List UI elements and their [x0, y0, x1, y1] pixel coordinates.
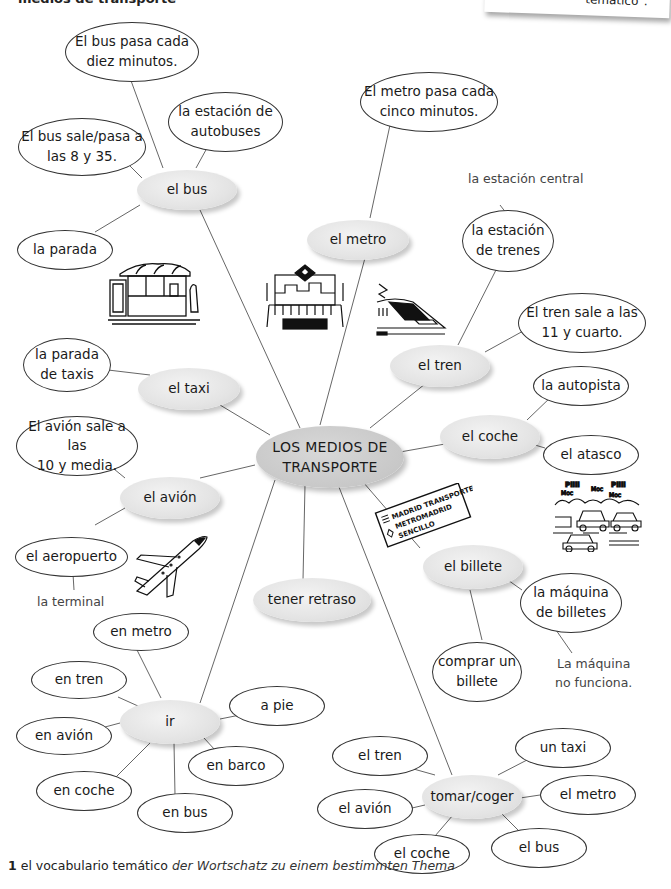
leaf-avion-sale: El avión sale a las 10 y media.: [16, 416, 138, 476]
metro-entrance-illustration: [265, 263, 345, 331]
leaf-atasco: el atasco: [543, 435, 639, 475]
footnote: 1 el vocabulario temático der Wortschatz…: [8, 858, 455, 873]
footnote-number: 1: [8, 858, 17, 873]
sound-moc-3: Moc: [609, 491, 621, 498]
note-estacion-central: la estación central: [468, 170, 583, 189]
leaf-en-coche: en coche: [36, 771, 132, 811]
hub-el-tren: el tren: [390, 345, 490, 387]
note-terminal: la terminal: [37, 593, 104, 612]
leaf-comprar-billete: comprar un billete: [432, 642, 522, 702]
hub-el-avion: el avión: [120, 477, 220, 519]
metro-ticket-illustration: MADRID TRANSPORTES METROMADRID SENCILLO: [373, 483, 473, 548]
center-topic: LOS MEDIOS DE TRANSPORTE: [256, 426, 404, 488]
leaf-en-avion: en avión: [16, 717, 112, 755]
leaf-en-tren: en tren: [31, 661, 127, 699]
bus-stop-illustration: [108, 260, 200, 328]
hub-tener-retraso: tener retraso: [253, 578, 371, 622]
leaf-estacion-autobuses: la estación de autobuses: [168, 92, 283, 152]
footnote-translation: der Wortschatz zu einem bestimmten Thema: [172, 858, 455, 873]
leaf-en-metro: en metro: [93, 613, 189, 651]
note-maquina-no-funciona: La máquina no funciona.: [555, 655, 632, 693]
leaf-en-bus: en bus: [137, 793, 233, 833]
leaf-tomar-el-tren: el tren: [332, 736, 428, 776]
hub-tomar-coger: tomar/coger: [422, 775, 522, 819]
leaf-tomar-un-taxi: un taxi: [515, 728, 611, 768]
hub-el-metro: el metro: [307, 220, 409, 260]
leaf-a-pie: a pie: [229, 686, 325, 726]
leaf-la-parada: la parada: [17, 230, 113, 270]
hub-el-bus: el bus: [137, 170, 237, 210]
sound-moc-1: Moc: [561, 489, 573, 496]
leaf-tomar-el-metro: el metro: [540, 775, 636, 815]
sound-moc-2: Moc: [591, 485, 603, 492]
leaf-estacion-trenes: la estación de trenes: [462, 210, 554, 272]
leaf-metro-pasa-cada: El metro pasa cada cinco minutos.: [360, 72, 498, 132]
hub-el-billete: el billete: [423, 545, 523, 589]
high-speed-train-illustration: [375, 280, 455, 338]
sound-piii-1: Piiii: [565, 481, 580, 489]
leaf-tren-sale: El tren sale a las 11 y cuarto.: [518, 293, 646, 353]
leaf-tomar-el-avion: el avión: [317, 789, 413, 829]
traffic-jam-illustration: Piiii Moc Piiii Moc Moc: [553, 477, 643, 552]
airplane-illustration: [133, 533, 213, 599]
footnote-term: el vocabulario temático: [21, 858, 168, 873]
hub-el-taxi: el taxi: [138, 368, 240, 410]
leaf-bus-sale: El bus sale/pasa a las 8 y 35.: [18, 118, 146, 176]
leaf-aeropuerto: el aeropuerto: [15, 537, 128, 577]
hub-el-coche: el coche: [440, 415, 540, 459]
sound-piii-2: Piiii: [611, 481, 626, 489]
hub-ir: ir: [120, 700, 220, 744]
leaf-autopista: la autopista: [533, 366, 629, 406]
leaf-maquina-billetes: la máquina de billetes: [520, 573, 622, 633]
leaf-parada-taxis: la parada de taxis: [23, 338, 111, 392]
leaf-bus-pasa-cada: El bus pasa cada diez minutos.: [65, 22, 199, 82]
leaf-tomar-el-bus: el bus: [491, 828, 587, 868]
leaf-en-barco: en barco: [188, 746, 284, 786]
